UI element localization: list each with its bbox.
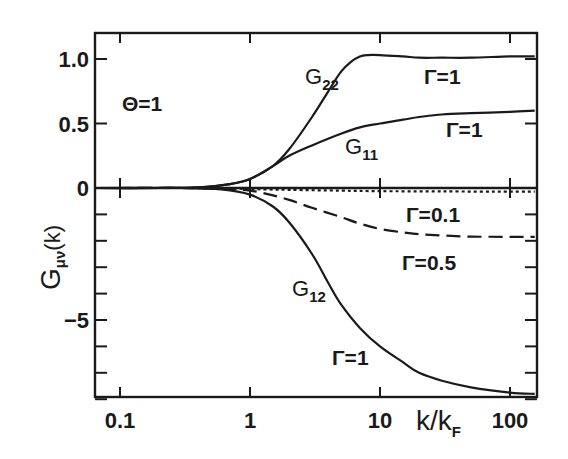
y-tick-label: 1.0 <box>58 47 89 72</box>
gamma-g11-label: Γ=1 <box>446 118 483 141</box>
g11-label: G11 <box>345 134 378 163</box>
x-axis-label: k/kF <box>416 405 461 440</box>
x-tick-label: 100 <box>492 408 529 433</box>
x-tick-label: 1 <box>244 408 256 433</box>
series-line-3 <box>96 188 535 237</box>
gamma-g12-label: Γ=1 <box>332 346 369 369</box>
g12-label: G12 <box>292 276 326 305</box>
chart: 0.11101001.00.50−5 Θ=1 G22 G11 G12 Γ=1 Γ… <box>0 0 568 459</box>
gamma-01-label: Γ=0.1 <box>406 203 460 226</box>
theta-label: Θ=1 <box>122 92 163 115</box>
y-tick-label: 0 <box>77 176 89 201</box>
x-tick-label: 0.1 <box>105 408 136 433</box>
x-tick-label: 10 <box>368 408 392 433</box>
y-tick-label: 0.5 <box>58 112 89 137</box>
y-axis-label: Gμν(k) <box>35 225 68 290</box>
g22-label: G22 <box>305 64 339 93</box>
gamma-05-label: Γ=0.5 <box>402 251 456 274</box>
y-tick-label: −5 <box>64 308 89 333</box>
gamma-g22-label: Γ=1 <box>424 65 461 88</box>
